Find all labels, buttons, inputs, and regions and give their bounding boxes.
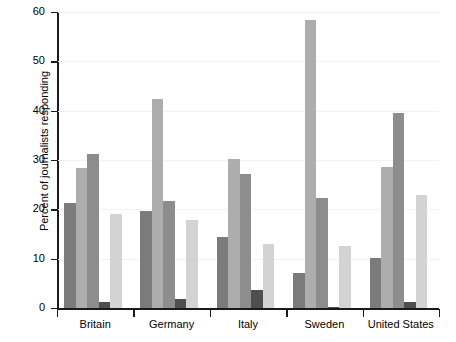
y-axis-title: Percent of journalists responding [38, 31, 50, 271]
x-axis-category-label: Germany [133, 318, 209, 330]
x-axis-category-label: Italy [210, 318, 286, 330]
bar [263, 244, 275, 308]
bar [316, 198, 328, 308]
x-axis-tick [363, 309, 364, 317]
plot-area [57, 12, 439, 308]
bar [393, 113, 405, 308]
bar [339, 246, 351, 308]
y-axis-tick-label: 30 [5, 153, 45, 165]
bar [99, 302, 111, 308]
bar [370, 258, 382, 308]
x-axis-category-label: United States [363, 318, 439, 330]
bar [305, 20, 317, 308]
bar [152, 99, 164, 308]
bars-container [57, 12, 439, 308]
y-axis-tick [51, 12, 58, 13]
y-axis-tick [51, 61, 58, 62]
x-axis-tick [57, 309, 58, 317]
bar [110, 214, 122, 308]
bar [76, 168, 88, 308]
y-axis-tick [51, 209, 58, 210]
bar [404, 302, 416, 308]
y-axis-tick-label: 60 [5, 5, 45, 17]
bar [186, 220, 198, 308]
y-axis-tick [51, 160, 58, 161]
bar-chart: Percent of journalists responding 010203… [0, 0, 456, 342]
bar [175, 299, 187, 308]
y-axis-tick-label: 0 [5, 301, 45, 313]
gridline [57, 12, 439, 13]
y-axis-tick-label: 10 [5, 252, 45, 264]
gridline [57, 61, 439, 62]
y-axis-tick-label: 50 [5, 54, 45, 66]
y-axis-tick [51, 111, 58, 112]
bar [240, 174, 252, 308]
x-axis-category-label: Sweden [286, 318, 362, 330]
x-axis-tick [439, 309, 440, 317]
bar [163, 201, 175, 308]
bar [381, 167, 393, 308]
x-axis-category-label: Britain [57, 318, 133, 330]
bar [217, 237, 229, 308]
x-axis-line [57, 308, 439, 310]
x-axis-tick [133, 309, 134, 317]
y-axis-tick-label: 40 [5, 104, 45, 116]
bar [328, 307, 340, 308]
bar [140, 211, 152, 308]
bar [87, 154, 99, 308]
bar [293, 273, 305, 308]
y-axis-tick-label: 20 [5, 202, 45, 214]
y-axis-tick [51, 259, 58, 260]
gridline [57, 111, 439, 112]
bar [416, 195, 428, 308]
bar [64, 203, 76, 308]
bar [251, 290, 263, 308]
bar [228, 159, 240, 308]
x-axis-tick [210, 309, 211, 317]
gridline [57, 160, 439, 161]
x-axis-tick [286, 309, 287, 317]
